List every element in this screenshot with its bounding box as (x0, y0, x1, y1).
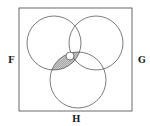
label-g: G (138, 55, 146, 65)
venn-diagram: F G H (0, 0, 150, 126)
label-f: F (8, 55, 15, 65)
circle-h (50, 52, 106, 108)
label-h: H (72, 114, 81, 124)
circle-f (27, 16, 81, 70)
circle-g (69, 16, 123, 70)
marked-point-circle (66, 52, 74, 60)
